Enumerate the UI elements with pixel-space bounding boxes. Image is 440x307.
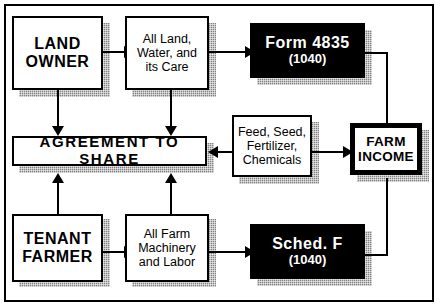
arrow-all-farm-to-agreement: [165, 173, 177, 183]
node-farm-income-sublabel: INCOME: [358, 149, 414, 164]
node-form-4835-sublabel: (1040): [289, 52, 327, 67]
node-agreement-to-share[interactable]: AGREEMENT TO SHARE: [12, 136, 207, 166]
node-all-farm[interactable]: All Farm Machinery and Labor: [125, 214, 209, 282]
node-sched-f-label: Sched. F: [272, 235, 343, 253]
node-sched-f[interactable]: Sched. F (1040): [250, 224, 365, 279]
node-tenant-farmer[interactable]: TENANT FARMER: [12, 214, 103, 282]
node-form-4835-label: Form 4835: [265, 34, 350, 52]
arrow-land-owner-to-agreement: [52, 126, 64, 136]
node-farm-income-label: FARM: [366, 134, 405, 149]
line-farm-income-up: [386, 52, 388, 128]
line-farm-income-to-form-4835: [363, 52, 388, 54]
node-form-4835[interactable]: Form 4835 (1040): [250, 23, 365, 78]
node-sched-f-sublabel: (1040): [289, 253, 327, 268]
node-land-owner-label: LAND OWNER: [26, 35, 90, 71]
line-all-land-to-agreement: [170, 90, 172, 130]
node-all-land-label: All Land, Water, and its Care: [137, 32, 197, 74]
node-agreement-to-share-label: AGREEMENT TO SHARE: [14, 134, 205, 168]
line-farm-income-to-sched-f: [363, 254, 388, 256]
node-feed-seed[interactable]: Feed, Seed, Fertilizer, Chemicals: [232, 115, 312, 177]
node-land-owner[interactable]: LAND OWNER: [12, 16, 103, 90]
diagram-canvas: LAND OWNER All Land, Water, and its Care…: [0, 0, 440, 307]
node-farm-income[interactable]: FARM INCOME: [350, 123, 422, 175]
line-land-owner-to-agreement: [57, 90, 59, 130]
arrow-tenant-farmer-to-agreement: [52, 173, 64, 183]
arrow-all-land-to-agreement: [165, 126, 177, 136]
line-farm-income-down: [386, 178, 388, 256]
arrow-feed-seed-to-agreement: [208, 146, 218, 158]
node-tenant-farmer-label: TENANT FARMER: [22, 230, 93, 266]
node-feed-seed-label: Feed, Seed, Fertilizer, Chemicals: [238, 125, 306, 167]
node-all-land[interactable]: All Land, Water, and its Care: [125, 16, 209, 90]
node-all-farm-label: All Farm Machinery and Labor: [138, 227, 196, 269]
